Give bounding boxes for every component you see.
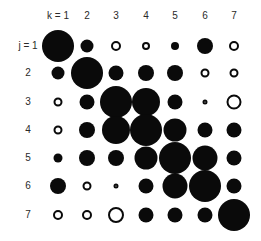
open-circle-marker	[82, 210, 92, 220]
open-circle-marker	[53, 210, 63, 220]
filled-circle-marker	[163, 174, 188, 199]
open-circle-marker	[83, 182, 92, 191]
filled-circle-marker	[139, 208, 154, 223]
open-circle-marker	[230, 69, 239, 78]
filled-circle-marker	[42, 30, 74, 62]
filled-circle-marker	[139, 179, 154, 194]
filled-circle-marker	[132, 88, 160, 116]
filled-circle-marker	[164, 119, 187, 142]
filled-circle-marker	[171, 42, 179, 50]
filled-circle-marker	[198, 123, 213, 138]
open-circle-marker	[54, 98, 63, 107]
column-label: 3	[113, 10, 119, 22]
filled-circle-marker	[168, 95, 183, 110]
row-label: 2	[25, 67, 31, 79]
filled-circle-marker	[227, 151, 242, 166]
filled-circle-marker	[227, 123, 242, 138]
filled-circle-marker	[167, 65, 183, 81]
filled-circle-marker	[227, 179, 242, 194]
filled-circle-marker	[80, 95, 95, 110]
open-circle-marker	[111, 41, 121, 51]
filled-circle-marker	[108, 150, 124, 166]
filled-circle-marker	[193, 146, 218, 171]
open-circle-marker	[201, 69, 210, 78]
filled-circle-marker	[197, 38, 213, 54]
filled-circle-marker	[81, 40, 94, 53]
column-label: 5	[172, 10, 178, 22]
filled-circle-marker	[138, 65, 154, 81]
open-circle-marker	[229, 41, 239, 51]
filled-circle-marker	[218, 199, 250, 231]
filled-circle-marker	[130, 114, 162, 146]
filled-circle-marker	[168, 208, 183, 223]
filled-circle-marker	[54, 154, 63, 163]
column-label: 6	[202, 10, 208, 22]
column-label: 4	[143, 10, 149, 22]
open-circle-marker	[227, 95, 242, 110]
filled-circle-marker	[159, 142, 191, 174]
open-circle-marker	[142, 42, 150, 50]
column-label: 2	[84, 10, 90, 22]
filled-circle-marker	[109, 66, 124, 81]
row-label: 3	[25, 96, 31, 108]
row-label: 6	[25, 180, 31, 192]
row-label: 5	[25, 152, 31, 164]
filled-circle-marker	[52, 67, 65, 80]
filled-circle-marker	[71, 57, 103, 89]
filled-circle-marker	[198, 208, 213, 223]
row-label: 7	[25, 209, 31, 221]
row-label: 4	[25, 124, 31, 136]
column-label: k = 1	[47, 10, 69, 22]
filled-circle-marker	[102, 116, 130, 144]
filled-circle-marker	[50, 178, 66, 194]
open-circle-marker	[203, 100, 208, 105]
filled-circle-marker	[189, 170, 221, 202]
open-circle-marker	[54, 126, 63, 135]
filled-circle-marker	[135, 147, 158, 170]
filled-circle-marker	[79, 150, 95, 166]
open-circle-marker	[108, 207, 124, 223]
open-circle-marker	[114, 184, 119, 189]
filled-circle-marker	[100, 86, 132, 118]
column-label: 7	[231, 10, 237, 22]
filled-circle-marker	[79, 122, 95, 138]
row-label: j = 1	[18, 40, 37, 52]
